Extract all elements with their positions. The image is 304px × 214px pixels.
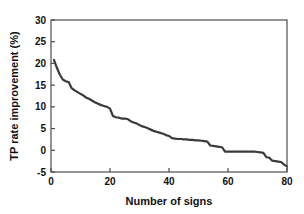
y-axis-tick-labels: -5051015202530 [35, 15, 47, 178]
y-tick-label: 30 [35, 15, 47, 26]
x-axis-tick-labels: 020406080 [48, 176, 293, 187]
x-tick-label: 80 [281, 176, 293, 187]
x-axis-title: Number of signs [126, 195, 213, 207]
x-tick-label: 20 [104, 176, 116, 187]
x-tick-label: 60 [222, 176, 234, 187]
plot-background [51, 20, 287, 172]
y-tick-label: 10 [35, 101, 47, 112]
y-tick-label: 5 [40, 123, 46, 134]
x-tick-label: 40 [163, 176, 175, 187]
y-tick-label: 15 [35, 80, 47, 91]
y-tick-label: 25 [35, 36, 47, 47]
y-tick-label: 20 [35, 58, 47, 69]
figure-container: 020406080 -5051015202530 Number of signs… [0, 0, 304, 214]
x-tick-label: 0 [48, 176, 54, 187]
y-axis-title: TP rate improvement (%) [8, 31, 20, 161]
y-tick-label: 0 [40, 145, 46, 156]
y-tick-label: -5 [37, 167, 46, 178]
line-chart: 020406080 -5051015202530 Number of signs… [0, 0, 304, 214]
